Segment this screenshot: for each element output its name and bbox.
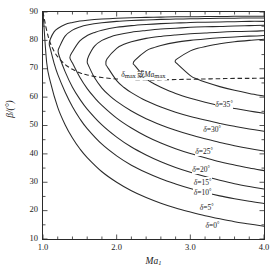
y-tick-label: 10 [18,234,38,243]
y-tick-label: 30 [18,177,38,186]
x-tick-label: 4.0 [249,243,277,252]
curve-label-delta-5: δ=5° [199,202,214,212]
x-axis-title-sub: 1 [158,259,161,266]
curve-label-delta-20: δ=20° [192,164,211,174]
y-axis-tick-labels: 102030405060708090 [16,0,38,278]
curve-label-delta-25: δ=25° [195,146,214,156]
x-tick-label: 2.0 [102,243,132,252]
y-tick-label: 20 [18,205,38,214]
plot-area: δmax 或Mamax δ=35°δ=30°δ=25°δ=20°δ=15°δ=1… [42,11,265,240]
delta-max-annotation: δmax 或Mamax [120,71,166,80]
y-tick-label: 90 [18,7,38,16]
curve-label-delta-30: δ=30° [203,124,222,134]
x-axis-title-main: Ma [146,256,159,266]
y-tick-label: 50 [18,120,38,129]
x-axis-tick-labels: 1.02.03.04.0 [42,243,265,257]
delta-curves [43,12,264,226]
x-tick-label: 3.0 [175,243,205,252]
y-axis-title: β/(°) [5,83,15,135]
x-tick-label: 1.0 [28,243,58,252]
curve-label-delta-10: δ=10° [193,187,212,197]
x-axis-title: Ma1 [42,256,265,266]
y-tick-label: 40 [18,149,38,158]
curves-svg [43,12,264,239]
y-tick-label: 60 [18,92,38,101]
curve-label-delta-0: δ=0° [205,220,220,230]
curve-label-delta-35: δ=35° [215,99,234,109]
y-tick-label: 80 [18,35,38,44]
theta-beta-mach-chart: 102030405060708090 β/(°) δmax 或Mamax δ=3… [0,0,277,278]
y-tick-label: 70 [18,63,38,72]
